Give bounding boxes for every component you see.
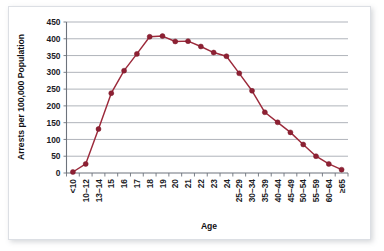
- arrests-series-line: [73, 36, 342, 172]
- y-tick-label: 100: [47, 135, 61, 145]
- y-tick-label: 400: [47, 34, 61, 44]
- x-tick-label: 16: [119, 179, 129, 189]
- data-point: [301, 142, 306, 147]
- x-tick-label: 19: [158, 179, 168, 189]
- data-point: [237, 71, 242, 76]
- x-tick-label: 35–39: [260, 179, 270, 203]
- x-tick-label: 40–44: [273, 179, 283, 203]
- data-point: [70, 169, 75, 174]
- x-tick-label: 55–59: [311, 179, 321, 203]
- data-point: [134, 51, 139, 56]
- y-tick-label: 50: [51, 151, 61, 161]
- y-tick-label: 350: [47, 51, 61, 61]
- x-tick-label: 45–49: [286, 179, 296, 203]
- data-point: [211, 50, 216, 55]
- data-point: [224, 54, 229, 59]
- x-tick-label: 21: [183, 179, 193, 189]
- x-tick-label: 18: [145, 179, 155, 189]
- data-point: [314, 154, 319, 159]
- x-tick-label: ≥65: [337, 179, 347, 193]
- y-axis-title: Arrests per 100,000 Population: [16, 34, 26, 160]
- data-point: [160, 34, 165, 39]
- data-point: [198, 44, 203, 49]
- data-point: [96, 127, 101, 132]
- data-point: [339, 167, 344, 172]
- arrests-series-markers: [70, 34, 344, 175]
- data-point: [262, 110, 267, 115]
- data-point: [250, 88, 255, 93]
- gridlines: [67, 22, 349, 156]
- x-tick-label: 25–29: [234, 179, 244, 203]
- x-tick-labels: <1010–1213–141516171819202122232425–2930…: [68, 179, 347, 203]
- y-tick-label: 150: [47, 118, 61, 128]
- x-tick-label: 10–12: [81, 179, 91, 203]
- x-tick-label: 23: [209, 179, 219, 189]
- data-point: [186, 39, 191, 44]
- x-tick-label: 13–14: [94, 179, 104, 203]
- y-tick-label: 200: [47, 101, 61, 111]
- x-tick-label: 50–54: [298, 179, 308, 203]
- data-point: [275, 120, 280, 125]
- x-tick-label: 20: [170, 179, 180, 189]
- data-point: [147, 34, 152, 39]
- chart-card: 050100150200250300350400450 <1010–1213–1…: [8, 6, 371, 240]
- x-tick-label: 15: [106, 179, 116, 189]
- data-point: [173, 39, 178, 44]
- x-tick-label: <10: [68, 179, 78, 194]
- y-tick-label: 450: [47, 17, 61, 27]
- data-point: [83, 161, 88, 166]
- data-point: [326, 161, 331, 166]
- data-point: [122, 68, 127, 73]
- x-tick-label: 24: [222, 179, 232, 189]
- x-tick-label: 60–64: [324, 179, 334, 203]
- y-tick-labels: 050100150200250300350400450: [47, 17, 61, 178]
- x-tick-label: 22: [196, 179, 206, 189]
- x-tick-label: 30–34: [247, 179, 257, 203]
- data-point: [288, 130, 293, 135]
- data-point: [109, 91, 114, 96]
- y-tick-label: 0: [56, 168, 61, 178]
- x-tick-label: 17: [132, 179, 142, 189]
- y-tick-label: 300: [47, 67, 61, 77]
- arrests-by-age-line-chart: 050100150200250300350400450 <1010–1213–1…: [9, 7, 371, 240]
- y-tick-label: 250: [47, 84, 61, 94]
- x-axis-title: Age: [201, 221, 217, 231]
